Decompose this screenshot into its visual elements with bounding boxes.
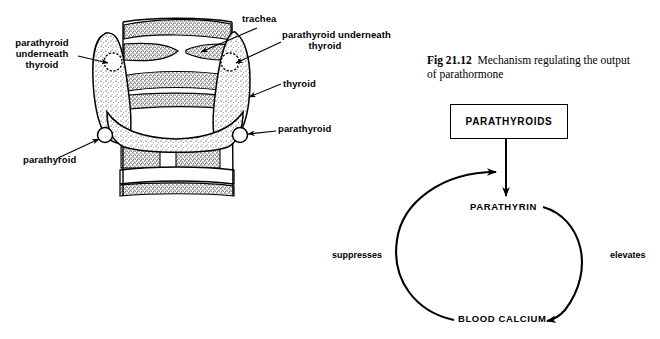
- node-parathyroids[interactable]: PARATHYROIDS: [450, 104, 568, 139]
- figure-page: parathyroid underneath thyroid parathyro…: [0, 0, 660, 339]
- edge-blood-calcium-to-parathyrin: [396, 172, 496, 320]
- parathyroid-lower-left: [98, 128, 113, 143]
- parathyroid-upper-right: [221, 53, 239, 71]
- label-parathyroid-left-lower: parathyroid: [23, 154, 76, 165]
- label-parathyroid-underneath-thyroid-right: parathyroid underneath thyroid: [282, 29, 368, 51]
- parathyroid-upper-left: [104, 53, 122, 71]
- label-line: underneath: [6, 48, 78, 59]
- leader-parathyroid-lower-right: [248, 131, 276, 134]
- figure-number: Fig 21.12: [427, 54, 472, 66]
- label-thyroid: thyroid: [283, 78, 316, 89]
- label-line: parathyroid underneath: [282, 29, 368, 40]
- node-blood-calcium[interactable]: BLOOD CALCIUM: [458, 313, 547, 324]
- leader-thyroid: [249, 84, 281, 97]
- label-line: thyroid: [282, 40, 368, 51]
- label-parathyroid-underneath-thyroid-left: parathyroid underneath thyroid: [6, 37, 78, 70]
- node-parathyrin[interactable]: PARATHYRIN: [470, 201, 537, 212]
- label-line: thyroid: [6, 59, 78, 70]
- edge-label-elevates: elevates: [610, 250, 646, 260]
- figure-caption: Fig 21.12 Mechanism regulating the outpu…: [427, 54, 642, 81]
- label-line: parathyroid: [6, 37, 78, 48]
- edge-parathyrin-to-blood-calcium: [543, 207, 582, 321]
- label-trachea: trachea: [242, 13, 277, 24]
- parathyroid-lower-right: [233, 128, 248, 143]
- edge-label-suppresses: suppresses: [332, 250, 382, 260]
